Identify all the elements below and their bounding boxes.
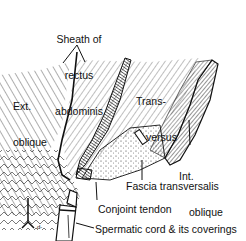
label-line: Ext. xyxy=(13,100,47,112)
conjoint-tendon xyxy=(76,168,92,180)
label-line: rectus xyxy=(44,69,114,81)
label-line: Sheath of xyxy=(44,33,114,45)
label-ext-oblique: Ext. oblique xyxy=(13,76,47,160)
label-line: Trans- xyxy=(136,95,177,107)
label-line: versus xyxy=(136,131,177,143)
label-line: oblique xyxy=(179,206,223,218)
label-spermatic-cord: Spermatic cord & its coverings xyxy=(95,223,237,235)
label-transversus: Trans- versus xyxy=(136,71,177,155)
label-conjoint-tendon: Conjoint tendon xyxy=(98,203,172,215)
label-fascia-transversalis: Fascia transversalis xyxy=(126,180,219,192)
label-line: oblique xyxy=(13,136,47,148)
svg-text:d-: d- xyxy=(37,224,42,230)
label-line: abdominis xyxy=(44,105,114,117)
label-sheath-of-rectus-abdominis: Sheath of rectus abdominis xyxy=(44,9,114,129)
